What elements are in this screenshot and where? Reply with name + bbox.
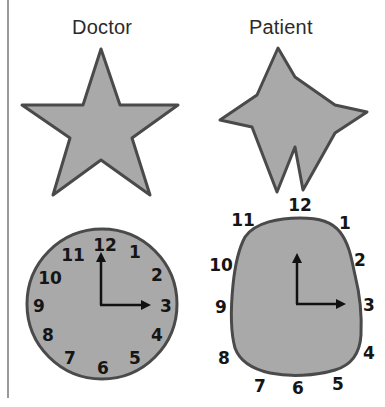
patient-clock-number: 8 xyxy=(218,348,230,368)
doctor-clock-number: 4 xyxy=(151,325,163,345)
doctor-clock: 12 1 2 3 4 5 6 7 8 9 10 11 xyxy=(27,229,177,379)
doctor-clock-number: 6 xyxy=(97,358,109,378)
patient-clock-number: 3 xyxy=(363,295,375,315)
patient-clock: 12 1 2 3 4 5 6 7 8 9 10 11 xyxy=(209,195,375,398)
doctor-clock-number: 2 xyxy=(151,265,163,285)
patient-clock-number: 5 xyxy=(332,374,344,394)
patient-clock-number: 12 xyxy=(288,195,312,215)
patient-clock-number: 6 xyxy=(292,378,304,398)
doctor-clock-number: 3 xyxy=(160,296,172,316)
patient-clock-number: 2 xyxy=(354,250,366,270)
patient-star xyxy=(220,48,367,192)
doctor-clock-number: 9 xyxy=(33,296,45,316)
doctor-clock-number: 1 xyxy=(129,242,141,262)
doctor-clock-number: 7 xyxy=(64,348,76,368)
patient-clock-number: 9 xyxy=(215,297,227,317)
doctor-clock-number: 11 xyxy=(61,245,85,265)
patient-clock-number: 11 xyxy=(231,210,255,230)
doctor-star xyxy=(22,49,178,195)
doctor-clock-number: 8 xyxy=(42,325,54,345)
patient-clock-number: 10 xyxy=(209,255,233,275)
patient-clock-number: 7 xyxy=(254,376,266,396)
patient-clock-number: 4 xyxy=(363,343,375,363)
doctor-clock-number: 10 xyxy=(38,268,62,288)
patient-clock-number: 1 xyxy=(339,213,351,233)
doctor-clock-number: 5 xyxy=(129,348,141,368)
drawing-canvas: 12 1 2 3 4 5 6 7 8 9 10 11 12 1 2 3 4 5 … xyxy=(0,0,385,407)
doctor-clock-number: 12 xyxy=(93,235,117,255)
